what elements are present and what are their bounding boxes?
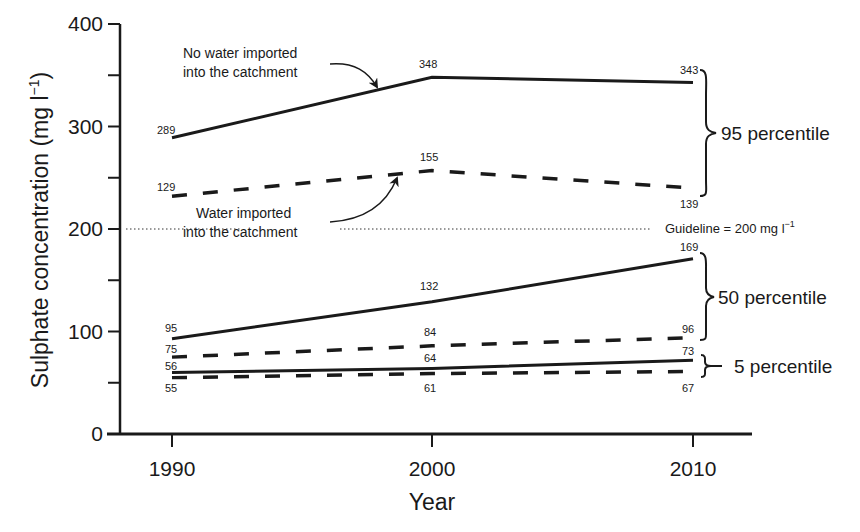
annotation-no-water-line2: into the catchment xyxy=(183,64,298,80)
label-5-solid-2010: 73 xyxy=(682,345,694,357)
y-axis-ticks: 0100200300400 xyxy=(68,12,120,445)
curly-brace-icon xyxy=(700,253,714,340)
annotation-water-line2: into the catchment xyxy=(183,224,298,240)
brace-5-percentile: 5 percentile xyxy=(701,355,832,377)
x-tick-label: 1990 xyxy=(149,457,196,480)
label-95-dashed-1990: 129 xyxy=(157,181,175,193)
x-axis: 199020002010 xyxy=(107,434,752,480)
label-5-dashed-1990: 55 xyxy=(165,382,177,394)
label-95-solid-2010: 343 xyxy=(680,64,698,76)
guideline-label: Guideline = 200 mg l−1 xyxy=(665,219,795,236)
label-95-dashed-2000: 155 xyxy=(420,151,438,163)
brace-50-percentile: 50 percentile xyxy=(700,253,827,340)
arrow-icon xyxy=(330,178,397,222)
group-label-95: 95 percentile xyxy=(721,123,830,144)
group-label-5: 5 percentile xyxy=(734,356,832,377)
group-label-50: 50 percentile xyxy=(718,287,827,308)
label-95-dashed-2010: 139 xyxy=(680,198,698,210)
y-tick-label: 200 xyxy=(68,217,103,240)
x-axis-ticks: 199020002010 xyxy=(149,434,717,480)
label-5-solid-2000: 64 xyxy=(424,352,436,364)
label-50-dashed-2000: 84 xyxy=(424,326,436,338)
label-95-solid-2000: 348 xyxy=(419,58,437,70)
label-50-dashed-1990: 75 xyxy=(165,343,177,355)
series-line-95-percentile-dashed xyxy=(172,171,693,197)
x-tick-label: 2010 xyxy=(670,457,717,480)
y-tick-label: 300 xyxy=(68,115,103,138)
curly-brace-icon xyxy=(700,70,716,196)
label-5-dashed-2010: 67 xyxy=(682,382,694,394)
x-axis-title: Year xyxy=(409,489,456,515)
curly-brace-icon xyxy=(701,355,722,377)
annotation-water-imported: Water imported into the catchment xyxy=(183,178,397,240)
label-50-dashed-2010: 96 xyxy=(682,323,694,335)
y-tick-label: 100 xyxy=(68,320,103,343)
y-tick-label: 400 xyxy=(68,12,103,35)
series-line-95-percentile-solid xyxy=(172,77,693,137)
sulphate-line-chart: 0100200300400 199020002010 Year Sulphate… xyxy=(0,0,860,532)
label-50-solid-2010: 169 xyxy=(680,241,698,253)
label-50-solid-2000: 132 xyxy=(420,280,438,292)
label-50-solid-1990: 95 xyxy=(165,322,177,334)
y-axis-title: Sulphate concentration (mg l−1) xyxy=(26,72,53,388)
brace-95-percentile: 95 percentile xyxy=(700,70,830,196)
annotation-water-line1: Water imported xyxy=(196,205,291,221)
label-5-dashed-2000: 61 xyxy=(424,382,436,394)
x-tick-label: 2000 xyxy=(409,457,456,480)
annotation-no-water-imported: No water imported into the catchment xyxy=(183,45,377,87)
y-tick-label: 0 xyxy=(91,422,103,445)
label-5-solid-1990: 56 xyxy=(165,360,177,372)
y-axis: 0100200300400 xyxy=(68,12,120,445)
arrow-icon xyxy=(330,64,377,87)
annotation-no-water-line1: No water imported xyxy=(183,45,297,61)
label-95-solid-1990: 289 xyxy=(157,124,175,136)
